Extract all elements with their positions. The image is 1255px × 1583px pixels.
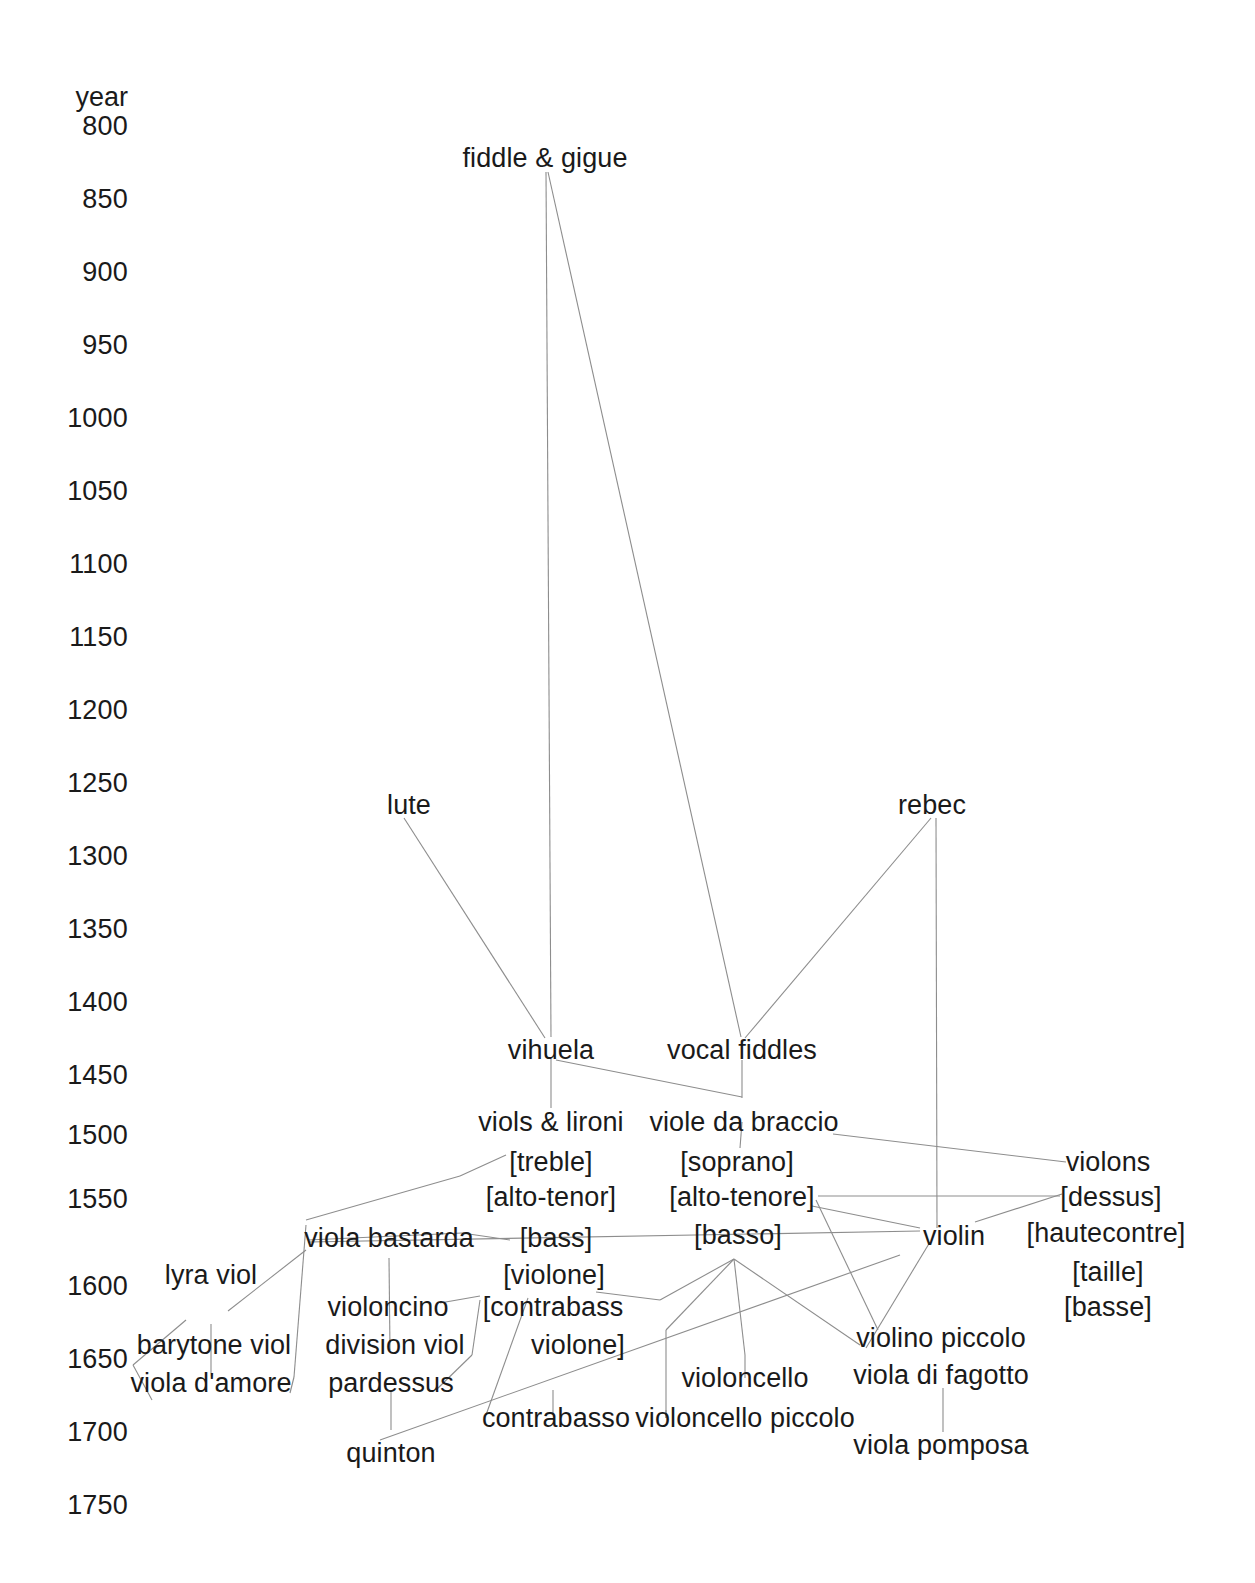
node-violoncello: violoncello [681,1364,808,1393]
node-viola-damore: viola d'amore [130,1369,291,1398]
node-pardessus: pardessus [328,1369,453,1398]
node-viola-pomposa: viola pomposa [853,1431,1028,1460]
edge-rebec-violin [936,818,937,1228]
node-dessus: [dessus] [1060,1183,1161,1212]
year-tick-1250: 1250 [0,770,128,797]
edge-fiddle-vihuela [546,172,551,1037]
node-viols-lironi: viols & lironi [478,1108,623,1137]
year-tick-1100: 1100 [0,551,128,578]
node-barytone-viol: barytone viol [137,1331,291,1360]
edge-violabastarda-up [306,1176,460,1220]
year-tick-1150: 1150 [0,624,128,651]
node-bass: [bass] [520,1224,593,1253]
edge-basso-violoncello [734,1259,745,1355]
year-tick-950: 950 [0,332,128,359]
node-alto-tenor: [alto-tenor] [486,1183,616,1212]
node-viola-bastarda: viola bastarda [304,1224,474,1253]
node-violin: violin [923,1222,985,1251]
node-contrabasso: contrabasso [482,1404,630,1433]
timeline-diagram: year 800 850 900 950 1000 1050 1100 1150… [0,0,1255,1583]
year-tick-1650: 1650 [0,1346,128,1373]
edge-basso-left [666,1259,734,1330]
year-tick-1750: 1750 [0,1492,128,1519]
edge-basso-contrabassviolone [660,1259,734,1300]
node-vocal-fiddles: vocal fiddles [667,1036,817,1065]
node-violoncello-piccolo: violoncello piccolo [635,1404,855,1433]
node-alto-tenore: [alto-tenore] [669,1183,814,1212]
node-division-viol: division viol [325,1331,464,1360]
node-lyra-viol: lyra viol [165,1261,257,1290]
year-tick-1600: 1600 [0,1273,128,1300]
year-tick-1550: 1550 [0,1186,128,1213]
node-treble: [treble] [509,1148,592,1177]
node-violino-piccolo: violino piccolo [856,1324,1026,1353]
year-tick-1350: 1350 [0,916,128,943]
node-contrabass-violone-2: violone] [531,1331,625,1360]
node-lute: lute [387,791,431,820]
node-viola-di-fagotto: viola di fagotto [853,1361,1029,1390]
node-rebec: rebec [898,791,966,820]
edge-fiddle-vocalfiddles [548,172,741,1037]
node-contrabass-violone-1: [contrabass [483,1293,624,1322]
node-hautecontre: [hautecontre] [1027,1219,1186,1248]
year-tick-1300: 1300 [0,843,128,870]
node-soprano: [soprano] [680,1148,793,1177]
edge-basso-violadifagotto [734,1259,860,1345]
node-basse: [basse] [1064,1293,1152,1322]
edge-altotenore-violinopiccolo [816,1200,878,1330]
node-violons: violons [1066,1148,1151,1177]
node-violoncino: violoncino [327,1293,448,1322]
edge-vihuela-violedabraccio [556,1060,742,1097]
year-tick-1200: 1200 [0,697,128,724]
year-tick-1450: 1450 [0,1062,128,1089]
edge-lute-vihuela [404,818,545,1038]
edge-treble-violabastarda [460,1155,506,1176]
node-viole-da-braccio: viole da braccio [649,1108,838,1137]
year-tick-900: 900 [0,259,128,286]
edge-altotenore-violin [812,1206,920,1228]
year-tick-1050: 1050 [0,478,128,505]
edge-rebec-vocalfiddles [745,818,931,1038]
axis-title-year: year [0,84,128,111]
node-basso: [basso] [694,1221,782,1250]
node-taille: [taille] [1072,1258,1143,1287]
edge-pardessus-up2 [472,1300,480,1355]
edge-violedabraccio-violons [833,1134,1066,1162]
year-tick-1700: 1700 [0,1419,128,1446]
year-tick-1500: 1500 [0,1122,128,1149]
year-tick-850: 850 [0,186,128,213]
node-quinton: quinton [346,1439,435,1468]
node-fiddle-gigue: fiddle & gigue [462,144,627,173]
year-tick-1000: 1000 [0,405,128,432]
year-tick-1400: 1400 [0,989,128,1016]
node-violone-bracket: [violone] [503,1261,604,1290]
year-tick-800: 800 [0,113,128,140]
node-vihuela: vihuela [508,1036,594,1065]
